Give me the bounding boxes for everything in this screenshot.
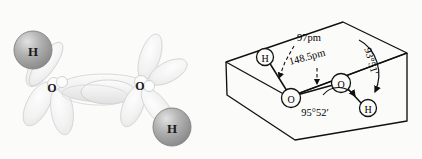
oo-length-label: 148.5pm xyxy=(288,47,327,67)
oxygen-label-left: O xyxy=(47,81,56,95)
hydrogen-sphere-lower-right: H xyxy=(153,108,191,146)
atom-h-right: H xyxy=(360,100,377,117)
atom-label-o: O xyxy=(287,94,294,105)
annotation-oo-bond-length: 148.5pm xyxy=(288,47,327,84)
atom-h-left: H xyxy=(257,49,274,66)
atom-o-left: O xyxy=(282,89,301,108)
oh-length-label: 97pm xyxy=(297,32,321,43)
geometry-model-svg: H O O H 97pm 148.5pm xyxy=(211,0,422,159)
ooh-angle-label: 95°52′ xyxy=(301,107,329,118)
geometry-model-panel: H O O H 97pm 148.5pm xyxy=(211,0,422,159)
atom-label-h: H xyxy=(364,104,371,115)
hydrogen-sphere-upper-left: H xyxy=(14,31,52,69)
dihedral-angle-label: 93°51′ xyxy=(362,46,380,75)
hydrogen-label: H xyxy=(28,44,38,59)
figure-container: H H O O xyxy=(0,0,422,159)
oxygen-label-right: O xyxy=(135,79,144,93)
hydrogen-label: H xyxy=(167,121,177,136)
lower-plane-outline xyxy=(226,53,407,140)
annotation-dihedral-angle: 93°51′ xyxy=(359,40,380,92)
orbital-model-svg: H H O O xyxy=(0,0,211,159)
atom-label-h: H xyxy=(261,53,268,64)
orbital-model-panel: H H O O xyxy=(0,0,211,159)
